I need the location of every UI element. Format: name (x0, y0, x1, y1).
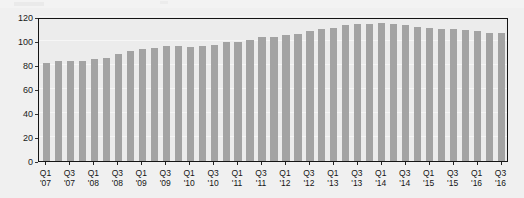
x-axis-tick-label-year: '08 (81, 178, 105, 188)
bar (175, 46, 182, 161)
bar (115, 54, 122, 161)
x-axis-tick-label-quarter: Q3 (57, 168, 81, 178)
x-axis-tick-label-year: '13 (321, 178, 345, 188)
x-axis-tick-mark (501, 162, 502, 165)
x-axis-tick-mark (93, 162, 94, 165)
bar (486, 33, 493, 161)
x-axis-tick-label: Q3'16 (489, 168, 513, 188)
x-axis-tick-label-quarter: Q1 (321, 168, 345, 178)
bar (402, 25, 409, 161)
plot-area (38, 18, 508, 162)
x-axis-tick-label-quarter: Q3 (345, 168, 369, 178)
y-axis-tick-label: 80 (23, 62, 33, 71)
x-axis-tick-mark (237, 162, 238, 165)
x-axis-tick-label-year: '15 (417, 178, 441, 188)
bar (103, 58, 110, 161)
bar (43, 63, 50, 161)
cropped-header-artifact (0, 0, 524, 8)
x-axis-tick-label-year: '13 (345, 178, 369, 188)
bar (55, 61, 62, 161)
bar (270, 37, 277, 161)
x-axis-tick-label-year: '16 (465, 178, 489, 188)
x-axis-tick-label-year: '10 (177, 178, 201, 188)
x-axis-tick-label: Q3'10 (201, 168, 225, 188)
bar (258, 37, 265, 161)
bar-chart-figure: 020406080100120 Q1'07Q3'07Q1'08Q3'08Q1'0… (0, 0, 524, 198)
x-axis-tick-label-year: '14 (393, 178, 417, 188)
x-axis-tick-label: Q1'14 (369, 168, 393, 188)
y-axis-tick-label: 0 (28, 158, 33, 167)
x-axis-tick-mark (69, 162, 70, 165)
x-axis-tick-label-quarter: Q3 (153, 168, 177, 178)
bar (342, 25, 349, 161)
gridline (39, 16, 507, 17)
bar (187, 47, 194, 161)
x-axis-tick-label: Q1'13 (321, 168, 345, 188)
x-axis-tick-label-quarter: Q3 (201, 168, 225, 178)
x-axis-tick-mark (405, 162, 406, 165)
bar (199, 46, 206, 161)
bar (354, 24, 361, 161)
x-axis-tick-mark (429, 162, 430, 165)
x-axis-tick-mark (357, 162, 358, 165)
x-axis-tick-label-year: '11 (225, 178, 249, 188)
bar (294, 34, 301, 161)
bar (438, 29, 445, 161)
x-axis-tick-label: Q1'10 (177, 168, 201, 188)
bar (318, 29, 325, 161)
x-axis-tick-label-year: '12 (297, 178, 321, 188)
x-axis-tick-label-year: '08 (105, 178, 129, 188)
x-axis-tick-label: Q1'12 (273, 168, 297, 188)
bar (366, 24, 373, 161)
x-axis-tick-mark (189, 162, 190, 165)
x-axis-tick-label-year: '12 (273, 178, 297, 188)
bar (234, 42, 241, 161)
bar (67, 61, 74, 161)
x-axis-tick-label-quarter: Q3 (297, 168, 321, 178)
y-axis-tick-label: 40 (23, 110, 33, 119)
x-axis-tick-label: Q1'08 (81, 168, 105, 188)
bar (127, 51, 134, 161)
x-axis-tick-label: Q3'13 (345, 168, 369, 188)
x-axis-tick-label-quarter: Q3 (393, 168, 417, 178)
bar (330, 28, 337, 161)
x-axis-tick-label-quarter: Q1 (129, 168, 153, 178)
bar (223, 42, 230, 161)
bar (498, 33, 505, 161)
x-axis-tick-label-quarter: Q3 (105, 168, 129, 178)
bar (211, 45, 218, 161)
bar (474, 31, 481, 161)
x-axis-tick-label-quarter: Q1 (465, 168, 489, 178)
x-axis-tick-label-quarter: Q1 (273, 168, 297, 178)
x-axis-tick-label: Q3'09 (153, 168, 177, 188)
bar (79, 61, 86, 161)
bar (462, 30, 469, 161)
x-axis-tick-label: Q1'16 (465, 168, 489, 188)
bar (414, 27, 421, 161)
x-axis-tick-label: Q1'11 (225, 168, 249, 188)
x-axis-tick-mark (141, 162, 142, 165)
x-axis-tick-label-year: '15 (441, 178, 465, 188)
x-axis-tick-label-year: '09 (153, 178, 177, 188)
x-axis-tick-label-year: '07 (33, 178, 57, 188)
bar (91, 59, 98, 161)
bar (378, 23, 385, 161)
bar (246, 40, 253, 161)
y-axis-tick-label: 60 (23, 86, 33, 95)
x-axis-tick-label: Q3'11 (249, 168, 273, 188)
x-axis-tick-label: Q3'08 (105, 168, 129, 188)
y-axis-tick-label: 100 (18, 38, 33, 47)
bar (139, 49, 146, 161)
x-axis-tick-mark (45, 162, 46, 165)
x-axis-tick-mark (453, 162, 454, 165)
x-axis-tick-label-year: '07 (57, 178, 81, 188)
x-axis-tick-label: Q1'09 (129, 168, 153, 188)
bar (282, 35, 289, 161)
x-axis-tick-label-year: '09 (129, 178, 153, 188)
bar (390, 24, 397, 161)
bar (151, 48, 158, 161)
x-axis-tick-mark (477, 162, 478, 165)
x-axis-tick-label-quarter: Q3 (249, 168, 273, 178)
bar (450, 29, 457, 161)
y-axis: 020406080100120 (0, 0, 38, 198)
